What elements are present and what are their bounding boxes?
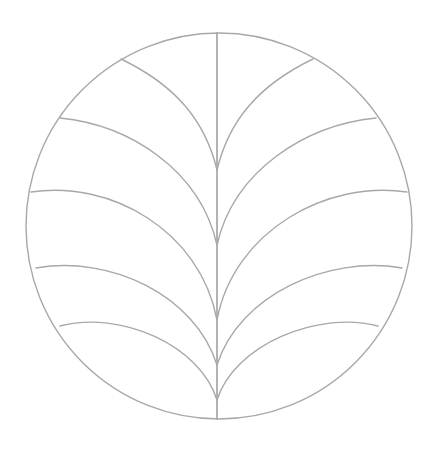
frond-right-4 bbox=[217, 266, 402, 365]
frond-left-2 bbox=[60, 118, 217, 245]
frond-right-2 bbox=[217, 118, 376, 245]
frond-circle-figure bbox=[0, 0, 438, 449]
frond-left-5 bbox=[60, 322, 217, 400]
frond-left-1 bbox=[121, 59, 217, 170]
frond-right-3 bbox=[217, 190, 407, 320]
frond-left-3 bbox=[31, 190, 217, 320]
frond-left-4 bbox=[36, 266, 217, 365]
frond-right-5 bbox=[217, 322, 378, 400]
frond-right-1 bbox=[217, 59, 313, 170]
line-drawing-canvas bbox=[0, 0, 438, 449]
